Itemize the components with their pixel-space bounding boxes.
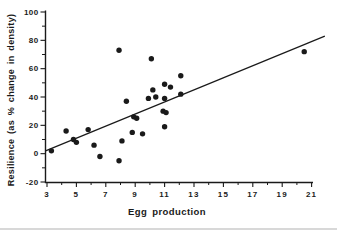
page-edge-artifact <box>0 228 337 230</box>
scatter-figure: 100806040200-203579111315171921 Resilien… <box>0 0 337 230</box>
x-tick-label: 19 <box>277 190 288 199</box>
x-tick-label: 5 <box>74 190 80 199</box>
scatter-point <box>153 94 158 99</box>
scatter-point <box>178 73 183 78</box>
scatter-point <box>178 91 183 96</box>
scatter-point <box>302 49 307 54</box>
y-axis-label: Resilience (as % change in density) <box>6 14 16 187</box>
x-tick-label: 9 <box>132 190 138 199</box>
scatter-point <box>116 158 121 163</box>
x-tick-label: 3 <box>44 190 50 199</box>
x-tick-label: 21 <box>306 190 317 199</box>
x-axis-label: Egg production <box>128 206 206 217</box>
x-tick-label: 11 <box>159 190 170 199</box>
scatter-point <box>97 154 102 159</box>
scatter-point <box>130 130 135 135</box>
scatter-point <box>150 87 155 92</box>
y-tick-label: 80 <box>29 36 39 45</box>
scatter-point <box>162 82 167 87</box>
scatter-point <box>85 127 90 132</box>
scatter-point <box>140 131 145 136</box>
scatter-point <box>116 48 121 53</box>
scatter-point <box>91 142 96 147</box>
scatter-point <box>134 116 139 121</box>
scatter-plot: 100806040200-203579111315171921 <box>0 0 337 230</box>
scatter-point <box>149 56 154 61</box>
scatter-point <box>168 84 173 89</box>
x-tick-label: 17 <box>247 190 258 199</box>
scatter-point <box>162 96 167 101</box>
scatter-point <box>119 138 124 143</box>
scatter-point <box>163 110 168 115</box>
regression-line <box>46 36 325 151</box>
scatter-point <box>124 99 129 104</box>
scatter-point <box>146 96 151 101</box>
y-tick-label: -20 <box>26 178 39 187</box>
y-tick-label: 20 <box>29 121 39 130</box>
scatter-point <box>162 124 167 129</box>
scatter-point <box>74 140 79 145</box>
scatter-point <box>49 148 54 153</box>
y-tick-label: 100 <box>24 8 39 17</box>
x-tick-label: 15 <box>218 190 229 199</box>
y-tick-label: 60 <box>29 64 39 73</box>
x-tick-label: 13 <box>188 190 199 199</box>
x-tick-label: 7 <box>103 190 109 199</box>
y-tick-label: 40 <box>29 93 39 102</box>
scatter-point <box>63 128 68 133</box>
y-tick-label: 0 <box>34 149 39 158</box>
